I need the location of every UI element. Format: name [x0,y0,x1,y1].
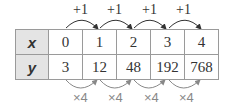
table-cell: 12 [83,55,117,80]
bottom-arrow-label: ×4 [108,90,123,105]
table-cell: 192 [151,55,185,80]
bottom-arrow-label: ×4 [144,90,159,105]
arrow-icon [134,20,166,29]
xy-table: x 0 1 2 3 4 y 3 12 48 192 768 [15,29,219,80]
row-header-x: x [16,30,49,55]
top-arrows [66,20,201,29]
arrow-icon [100,80,131,88]
arrow-icon [66,80,97,88]
bottom-arrows [66,80,200,88]
arrow-icon [66,20,98,29]
table-row-y: y 3 12 48 192 768 [16,55,219,80]
top-arrow-label: +1 [142,2,157,18]
table-cell: 3 [49,55,83,80]
top-arrow-label: +1 [73,2,88,18]
arrow-icon [169,20,201,29]
arrow-icon [134,80,165,88]
arrow-icon [169,80,200,88]
top-arrow-label: +1 [107,2,122,18]
table-row-x: x 0 1 2 3 4 [16,30,219,55]
table-cell: 0 [49,30,83,55]
arrow-icon [100,20,132,29]
bottom-arrow-label: ×4 [179,90,194,105]
table-cell: 48 [117,55,151,80]
table-cell: 1 [83,30,117,55]
row-header-y: y [16,55,49,80]
table-cell: 2 [117,30,151,55]
table-cell: 3 [151,30,185,55]
top-arrow-label: +1 [176,2,191,18]
table-cell: 768 [185,55,219,80]
table-cell: 4 [185,30,219,55]
bottom-arrow-label: ×4 [73,90,88,105]
